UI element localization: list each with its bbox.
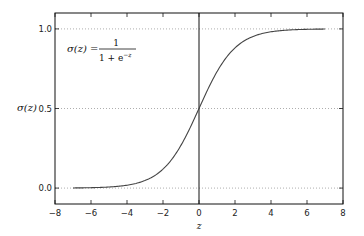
- svg-text:1 + e−z: 1 + e−z: [99, 51, 132, 63]
- x-tick-label: −6: [85, 208, 98, 218]
- x-tick-label: 0: [196, 208, 201, 218]
- x-axis-label: z: [196, 221, 202, 231]
- x-tick-label: −2: [157, 208, 170, 218]
- y-axis-label: σ(z): [17, 102, 37, 113]
- x-tick-label: 2: [232, 208, 237, 218]
- svg-text:1: 1: [113, 38, 119, 48]
- y-tick-labels: 0.00.51.0: [38, 24, 52, 193]
- y-tick-label: 0.5: [38, 104, 52, 114]
- x-tick-label: 4: [268, 208, 273, 218]
- x-tick-label: −8: [49, 208, 62, 218]
- y-tick-label: 1.0: [38, 24, 52, 34]
- x-tick-label: 8: [340, 208, 345, 218]
- x-tick-label: 6: [304, 208, 309, 218]
- y-tick-label: 0.0: [38, 183, 52, 193]
- formula-annotation: σ(z) = 1 1 + e−z: [67, 38, 136, 63]
- sigmoid-chart: −8−6−4−202468 0.00.51.0 z σ(z) σ(z) = 1 …: [0, 0, 364, 236]
- x-tick-labels: −8−6−4−202468: [49, 208, 346, 218]
- x-tick-label: −4: [121, 208, 134, 218]
- svg-text:σ(z) =: σ(z) =: [67, 43, 98, 54]
